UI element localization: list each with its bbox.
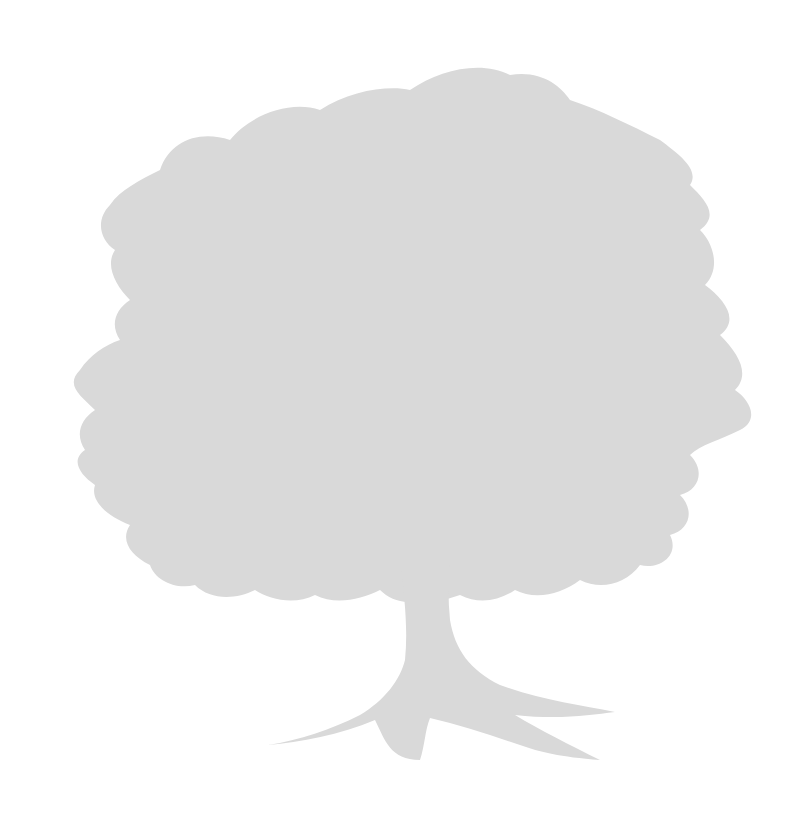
tree-silhouette [0,0,809,826]
tree-crown [74,68,751,602]
